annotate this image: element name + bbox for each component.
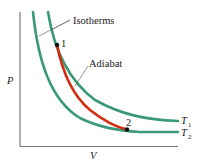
adiabat-label: Adiabat [89,58,122,69]
isotherms-label: Isotherms [73,15,114,26]
t1-subscript: 1 [188,121,192,129]
y-axis-label: P [6,75,14,86]
x-axis-label: V [90,150,98,161]
isotherm-t2-curve [33,12,178,132]
pv-diagram: Isotherms Adiabat 1 2 P V T 1 T 2 [0,0,200,166]
t1-label: T [181,115,188,126]
adiabat-leader [75,66,88,86]
point-1-label: 1 [61,38,66,49]
point-1-marker [55,43,59,47]
t2-subscript: 2 [188,133,192,141]
point-2-label: 2 [126,117,131,128]
isotherms-leader-2 [51,20,70,30]
t2-label: T [181,127,188,138]
